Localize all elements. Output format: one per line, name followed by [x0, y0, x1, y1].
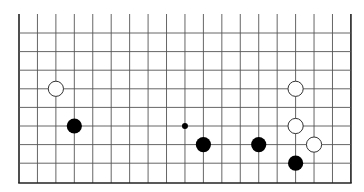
- go-board: [0, 0, 364, 192]
- white-stone: [306, 137, 321, 152]
- dot-marker-icon: [182, 123, 188, 129]
- black-stone: [196, 137, 211, 152]
- black-stone: [251, 137, 266, 152]
- white-stone: [48, 81, 63, 96]
- white-stone: [288, 118, 303, 133]
- black-stone: [67, 118, 82, 133]
- black-stone: [288, 156, 303, 171]
- markers-layer: [182, 123, 188, 129]
- white-stone: [288, 81, 303, 96]
